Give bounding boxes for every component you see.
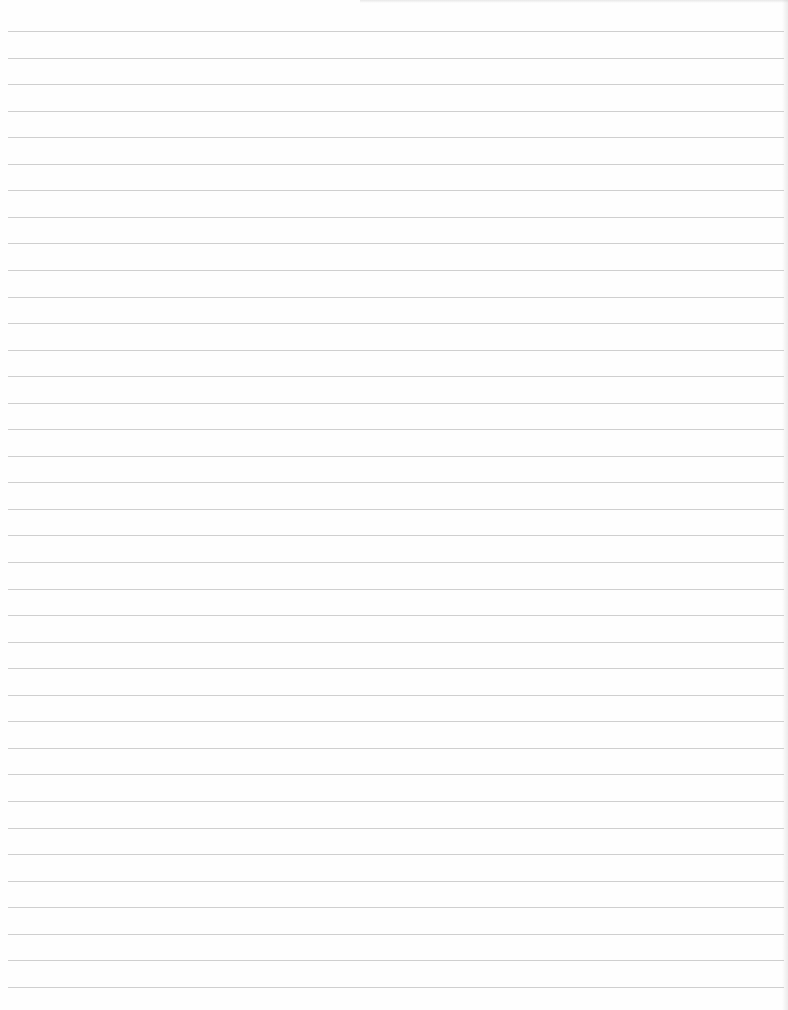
ruled-line — [8, 270, 784, 271]
ruled-line — [8, 828, 784, 829]
ruled-line — [8, 562, 784, 563]
scan-top-shadow — [360, 0, 788, 3]
ruled-line — [8, 801, 784, 802]
ruled-line — [8, 668, 784, 669]
ruled-line — [8, 323, 784, 324]
ruled-line — [8, 535, 784, 536]
ruled-line — [8, 190, 784, 191]
ruled-line — [8, 31, 784, 32]
ruled-line — [8, 429, 784, 430]
ruled-line — [8, 881, 784, 882]
ruled-line — [8, 907, 784, 908]
ruled-line — [8, 243, 784, 244]
ruled-line — [8, 774, 784, 775]
ruled-line — [8, 456, 784, 457]
ruled-line — [8, 854, 784, 855]
ruled-line — [8, 58, 784, 59]
ruled-line — [8, 748, 784, 749]
ruled-line — [8, 589, 784, 590]
ruled-line — [8, 137, 784, 138]
ruled-line — [8, 721, 784, 722]
ruled-line — [8, 695, 784, 696]
ruled-line — [8, 297, 784, 298]
ruled-line — [8, 164, 784, 165]
ruled-line — [8, 615, 784, 616]
scan-edge-shadow — [782, 0, 788, 1010]
ruled-line — [8, 987, 784, 988]
ruled-line — [8, 217, 784, 218]
ruled-line — [8, 376, 784, 377]
lined-paper-sheet — [0, 0, 788, 1010]
ruled-line — [8, 482, 784, 483]
ruled-line — [8, 84, 784, 85]
ruled-line — [8, 934, 784, 935]
ruled-line — [8, 960, 784, 961]
ruled-line — [8, 111, 784, 112]
ruled-line — [8, 403, 784, 404]
ruled-line — [8, 350, 784, 351]
ruled-line — [8, 509, 784, 510]
ruled-line — [8, 642, 784, 643]
